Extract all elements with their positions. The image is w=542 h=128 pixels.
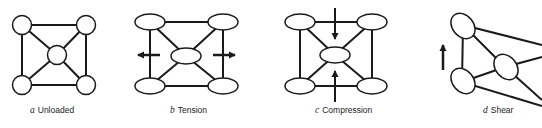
caption-b-letter: b bbox=[170, 105, 175, 115]
caption-c-letter: c bbox=[315, 105, 319, 115]
node-bottom-left bbox=[135, 78, 165, 94]
node-top-left bbox=[135, 14, 165, 30]
node-top-left bbox=[285, 14, 315, 30]
node-center bbox=[171, 48, 201, 64]
node-center bbox=[48, 46, 67, 65]
caption-b-title: Tension bbox=[178, 105, 207, 115]
load-diagram-figure bbox=[0, 0, 542, 128]
node-bottom-left bbox=[285, 78, 315, 94]
node-bottom-left bbox=[446, 64, 480, 99]
node-bottom-right bbox=[357, 78, 387, 94]
node-bottom-right bbox=[77, 76, 96, 95]
node-top-right bbox=[357, 14, 387, 30]
caption-c-title: Compression bbox=[322, 105, 372, 115]
caption-a-letter: a bbox=[30, 105, 35, 115]
caption-b: bTension bbox=[170, 105, 207, 115]
node-top-left bbox=[13, 16, 32, 35]
caption-d: dShear bbox=[483, 105, 513, 115]
caption-a: aUnloaded bbox=[30, 105, 74, 115]
node-center bbox=[320, 47, 350, 63]
caption-d-title: Shear bbox=[491, 105, 514, 115]
caption-a-title: Unloaded bbox=[38, 105, 74, 115]
panel-a-unloaded-network bbox=[13, 16, 96, 95]
panel-d-shear-network bbox=[446, 9, 542, 106]
caption-c: cCompression bbox=[315, 105, 372, 115]
node-bottom-right bbox=[208, 78, 238, 94]
node-top-right bbox=[77, 16, 96, 35]
node-bottom-left bbox=[13, 76, 32, 95]
caption-d-letter: d bbox=[483, 105, 488, 115]
node-top-right bbox=[208, 14, 238, 30]
